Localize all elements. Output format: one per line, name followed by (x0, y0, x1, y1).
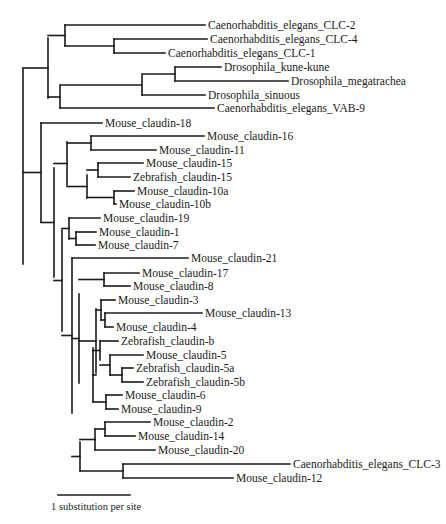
leaf-label: Mouse_claudin-10a (137, 185, 228, 197)
leaf-label: Zebrafish_claudin-15 (133, 171, 232, 183)
leaf-label: Drosophila_kune-kune (224, 61, 329, 74)
leaf-label: Mouse_claudin-10b (119, 198, 211, 210)
leaf-label: Caenorhabditis_elegans_CLC-4 (210, 33, 358, 46)
phylogenetic-tree: Caenorhabditis_elegans_CLC-2Caenorhabdit… (0, 0, 446, 524)
leaf-labels: Caenorhabditis_elegans_CLC-2Caenorhabdit… (98, 19, 441, 484)
leaf-label: Mouse_claudin-4 (116, 321, 197, 333)
leaf-label: Mouse_claudin-9 (121, 403, 202, 415)
leaf-label: Caenorhabditis_elegans_CLC-2 (208, 19, 356, 32)
leaf-label: Mouse_claudin-15 (146, 157, 232, 169)
leaf-label: Mouse_claudin-19 (103, 212, 189, 224)
leaf-label: Mouse_claudin-6 (125, 389, 206, 401)
leaf-label: Mouse_claudin-8 (133, 280, 214, 292)
leaf-label: Mouse_claudin-2 (153, 416, 234, 428)
leaf-label: Mouse_claudin-12 (236, 472, 322, 484)
leaf-label: Zebrafish_claudin-5b (146, 376, 245, 388)
leaf-label: Mouse_claudin-13 (205, 307, 291, 319)
leaf-label: Mouse_claudin-11 (159, 144, 245, 156)
leaf-label: Caenorhabditis_elegans_CLC-1 (168, 47, 316, 60)
leaf-label: Mouse_claudin-18 (105, 117, 191, 129)
leaf-label: Caenorhabditis_elegans_VAB-9 (217, 102, 365, 115)
leaf-label: Zebrafish_claudin-b (121, 335, 214, 347)
leaf-label: Mouse_claudin-7 (98, 239, 179, 251)
leaf-label: Drosophila_sinuous (208, 89, 301, 102)
leaf-label: Mouse_claudin-20 (158, 444, 244, 456)
leaf-label: Mouse_claudin-16 (207, 130, 293, 142)
leaf-label: Mouse_claudin-1 (99, 226, 180, 238)
leaf-label: Mouse_claudin-14 (138, 430, 224, 442)
scale-bar: 1 substitution per site (51, 495, 141, 512)
leaf-label: Mouse_claudin-3 (118, 294, 199, 306)
scale-bar-label: 1 substitution per site (51, 501, 141, 512)
leaf-label: Mouse_claudin-17 (142, 267, 228, 279)
leaf-label: Drosophila_megatrachea (291, 75, 406, 88)
leaf-label: Mouse_claudin-5 (146, 349, 227, 361)
leaf-label: Caenorhabditis_elegans_CLC-3 (293, 458, 441, 471)
leaf-label: Zebrafish_claudin-5a (136, 362, 234, 374)
leaf-label: Mouse_claudin-21 (191, 252, 277, 264)
